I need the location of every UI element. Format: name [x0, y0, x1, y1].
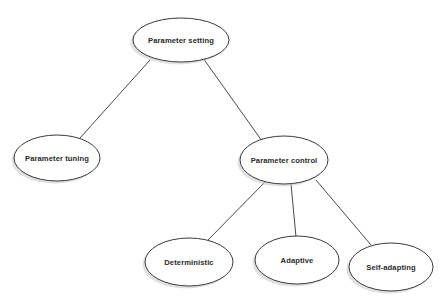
- connector-parameter-control-to-deterministic: [208, 181, 266, 240]
- diagram-canvas: Parameter settingParameter tuningParamet…: [0, 0, 448, 307]
- node-label-deterministic: Deterministic: [164, 258, 213, 267]
- diagram-svg: Parameter settingParameter tuningParamet…: [0, 0, 448, 307]
- node-adaptive[interactable]: Adaptive: [253, 236, 340, 287]
- connector-lines-group: [80, 58, 371, 245]
- connector-parameter-setting-to-parameter-control: [203, 58, 262, 141]
- node-label-parameter-tuning: Parameter tuning: [25, 154, 89, 163]
- node-label-self-adapting: Self-adapting: [366, 263, 416, 272]
- connector-parameter-control-to-self-adapting: [316, 180, 371, 245]
- connector-parameter-setting-to-parameter-tuning: [80, 60, 150, 138]
- node-label-parameter-setting: Parameter setting: [148, 36, 214, 45]
- node-deterministic[interactable]: Deterministic: [143, 238, 234, 289]
- node-label-adaptive: Adaptive: [281, 256, 314, 265]
- node-parameter-tuning[interactable]: Parameter tuning: [12, 135, 101, 184]
- connector-parameter-control-to-adaptive: [291, 184, 296, 237]
- node-parameter-setting[interactable]: Parameter setting: [131, 18, 230, 65]
- node-self-adapting[interactable]: Self-adapting: [347, 243, 434, 294]
- node-label-parameter-control: Parameter control: [251, 156, 318, 165]
- node-parameter-control[interactable]: Parameter control: [238, 136, 329, 187]
- diagram-nodes-group: Parameter settingParameter tuningParamet…: [12, 18, 434, 294]
